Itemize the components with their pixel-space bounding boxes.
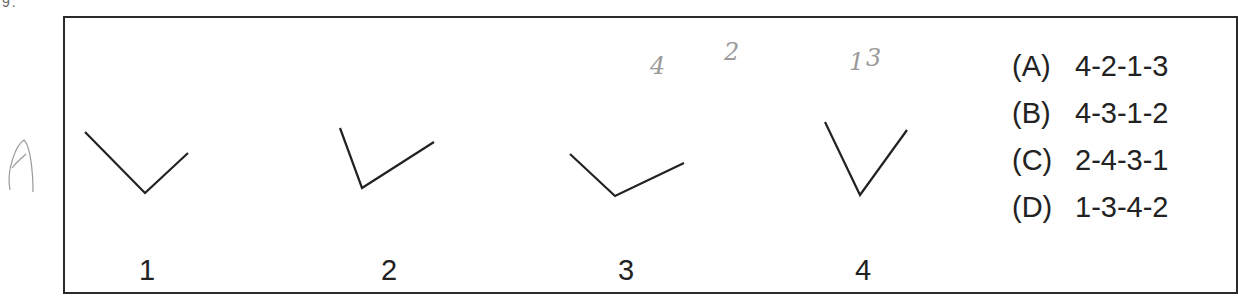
- option-sequence: 1-3-4-2: [1075, 191, 1169, 238]
- option-letter: (B): [1012, 97, 1075, 144]
- figure-label-4: 4: [855, 254, 871, 287]
- angle-figure-2: [340, 128, 434, 188]
- option-sequence: 4-2-1-3: [1075, 50, 1169, 97]
- handwritten-a-mark: [9, 140, 33, 192]
- figure-label-3: 3: [618, 254, 634, 287]
- option-a[interactable]: (A) 4-2-1-3: [1012, 50, 1169, 97]
- angle-figure-3: [570, 154, 684, 196]
- handwritten-annotation-4: 4: [650, 52, 665, 80]
- angle-figure-4: [825, 122, 907, 195]
- option-b[interactable]: (B) 4-3-1-2: [1012, 97, 1169, 144]
- handwritten-annotation-2: 2: [724, 38, 739, 66]
- option-letter: (C): [1012, 144, 1075, 191]
- handwritten-annotation-3: 3: [866, 44, 881, 72]
- figure-label-1: 1: [139, 254, 155, 287]
- option-letter: (D): [1012, 191, 1075, 238]
- option-sequence: 4-3-1-2: [1075, 97, 1169, 144]
- figure-label-2: 2: [381, 254, 397, 287]
- angle-figure-1: [85, 132, 188, 193]
- option-letter: (A): [1012, 50, 1075, 97]
- handwritten-annotation-1: 1: [849, 48, 864, 76]
- answer-options: (A) 4-2-1-3 (B) 4-3-1-2 (C) 2-4-3-1 (D) …: [1012, 50, 1169, 238]
- option-d[interactable]: (D) 1-3-4-2: [1012, 191, 1169, 238]
- option-sequence: 2-4-3-1: [1075, 144, 1169, 191]
- option-c[interactable]: (C) 2-4-3-1: [1012, 144, 1169, 191]
